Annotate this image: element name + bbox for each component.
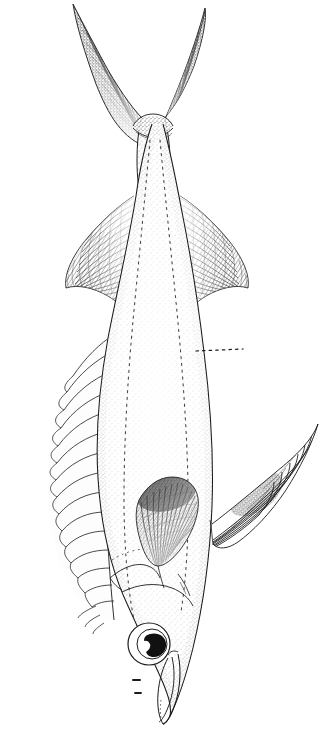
illustration-plate: Fish species lateral-view line illustrat…: [0, 0, 327, 737]
fish-illustration-svg: Fish species lateral-view line illustrat…: [0, 0, 327, 737]
eye: [128, 623, 170, 665]
